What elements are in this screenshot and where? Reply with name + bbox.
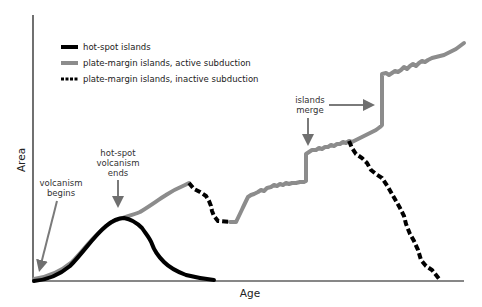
y-axis-label: Area — [15, 148, 27, 172]
legend-label-active: plate-margin islands, active subduction — [83, 58, 251, 68]
annotation-volcanism-begins: volcanism begins — [40, 178, 83, 268]
annotation-text-line: hot-spot — [100, 148, 136, 158]
x-axis-label: Age — [240, 287, 260, 299]
annotation-text-line: merge — [296, 105, 323, 115]
annotation-text-line: islands — [295, 95, 325, 105]
series-hot-spot — [34, 218, 214, 281]
annotation-text-line: volcanism — [97, 158, 140, 168]
arrow-icon — [40, 201, 57, 268]
series-plate-margin-active-late — [230, 43, 464, 222]
legend-label-inactive: plate-margin islands, inactive subductio… — [83, 74, 259, 84]
legend: hot-spot islands plate-margin islands, a… — [61, 42, 259, 84]
annotation-text-line: ends — [108, 168, 129, 178]
annotation-hotspot-ends: hot-spot volcanism ends — [97, 148, 140, 204]
annotation-text-line: volcanism — [40, 178, 83, 188]
series-plate-margin-inactive-early — [189, 183, 230, 222]
annotation-islands-merge: islands merge — [295, 95, 371, 142]
island-area-age-diagram: Age Area hot-spot islands plate-margin i… — [0, 0, 482, 307]
series-plate-margin-inactive-late — [349, 141, 440, 280]
annotation-text-line: begins — [47, 188, 76, 198]
legend-label-hot-spot: hot-spot islands — [83, 42, 151, 52]
axes — [33, 15, 464, 281]
